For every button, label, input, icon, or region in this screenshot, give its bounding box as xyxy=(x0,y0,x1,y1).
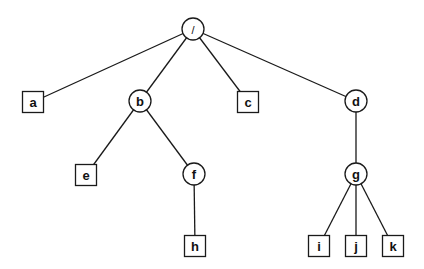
edge-b-f xyxy=(140,101,194,174)
edge-root-a xyxy=(33,29,193,102)
directory-node-f: f xyxy=(183,163,205,185)
file-node-j: j xyxy=(346,236,367,257)
node-label: g xyxy=(352,167,360,182)
tree-diagram: /abcdefghijk xyxy=(0,0,424,269)
file-node-h: h xyxy=(185,236,206,257)
node-label: d xyxy=(352,94,360,109)
node-label: f xyxy=(192,167,197,182)
edge-root-b xyxy=(140,29,193,101)
node-label: e xyxy=(82,168,89,183)
directory-node-d: d xyxy=(345,90,367,112)
directory-node-g: g xyxy=(345,163,367,185)
tree-nodes: /abcdefghijk xyxy=(23,18,404,257)
node-label: i xyxy=(317,239,321,254)
file-node-i: i xyxy=(309,236,330,257)
node-label: k xyxy=(389,239,397,254)
file-node-c: c xyxy=(238,92,259,113)
edge-root-d xyxy=(193,29,356,101)
tree-edges xyxy=(33,29,393,246)
node-label: j xyxy=(353,239,358,254)
node-label: b xyxy=(136,94,144,109)
directory-node-root: / xyxy=(182,18,204,40)
file-node-k: k xyxy=(383,236,404,257)
node-label: c xyxy=(244,95,251,110)
directory-node-b: b xyxy=(129,90,151,112)
file-node-e: e xyxy=(76,165,97,186)
node-label: a xyxy=(29,95,37,110)
node-label: h xyxy=(191,239,199,254)
file-node-a: a xyxy=(23,92,44,113)
